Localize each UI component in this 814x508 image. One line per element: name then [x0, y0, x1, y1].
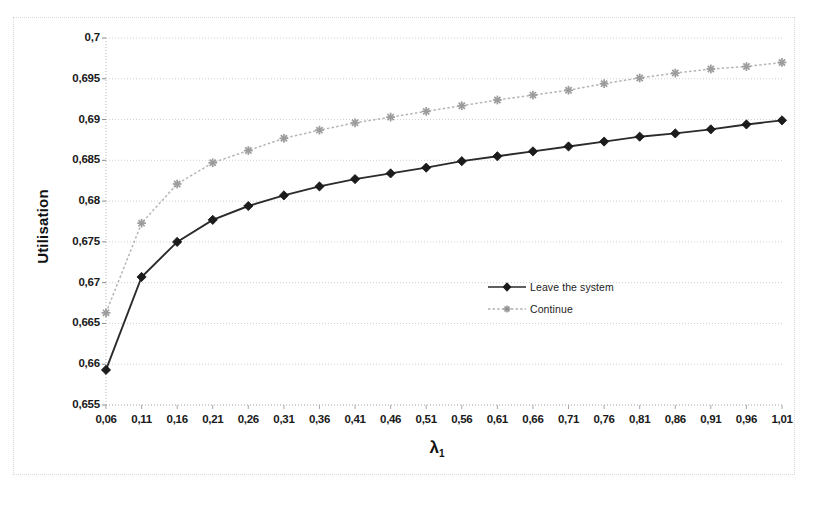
x-axis-tick-label: 0,56	[442, 413, 482, 425]
x-axis-tick-label: 0,96	[726, 413, 766, 425]
x-axis-tick-label: 0,26	[228, 413, 268, 425]
x-axis-tick-label: 1,01	[762, 413, 802, 425]
x-axis-tick-label: 0,46	[371, 413, 411, 425]
x-axis-tick-label: 0,71	[549, 413, 589, 425]
series-markers	[101, 58, 786, 374]
x-axis-tick-label: 0,36	[299, 413, 339, 425]
y-axis-tick-label: 0,68	[44, 194, 100, 206]
x-axis-tick-label: 0,86	[655, 413, 695, 425]
series-lines	[106, 62, 782, 369]
y-axis-tick-label: 0,685	[44, 153, 100, 165]
y-axis-tick-label: 0,665	[44, 316, 100, 328]
legend-item-leave-the-system: Leave the system	[487, 276, 614, 298]
x-axis-tick-label: 0,61	[477, 413, 517, 425]
legend-label-leave-the-system: Leave the system	[530, 281, 614, 293]
x-axis-tick-label: 0,16	[157, 413, 197, 425]
x-axis-tick-label: 0,91	[691, 413, 731, 425]
x-axis-tick-label: 0,51	[406, 413, 446, 425]
y-axis-tick-label: 0,69	[44, 113, 100, 125]
y-axis-tick-label: 0,675	[44, 235, 100, 247]
axis-lines	[102, 38, 782, 409]
y-axis-title: Utilisation	[34, 167, 51, 287]
x-axis-tick-label: 0,81	[620, 413, 660, 425]
legend-item-continue: Continue	[487, 298, 614, 320]
y-axis-tick-label: 0,7	[44, 31, 100, 43]
chart-svg	[0, 0, 814, 508]
y-axis-tick-label: 0,655	[44, 398, 100, 410]
x-axis-title-symbol: λ	[429, 438, 438, 457]
y-axis-tick-label: 0,66	[44, 357, 100, 369]
gridlines	[106, 38, 782, 405]
legend-label-continue: Continue	[530, 303, 573, 315]
x-axis-tick-label: 0,66	[513, 413, 553, 425]
chart-plot-area: 0,6550,660,6650,670,6750,680,6850,690,69…	[0, 0, 814, 508]
x-axis-tick-label: 0,06	[86, 413, 126, 425]
x-axis-title-subscript: 1	[439, 448, 445, 459]
y-axis-tick-label: 0,695	[44, 72, 100, 84]
y-axis-tick-label: 0,67	[44, 276, 100, 288]
x-axis-tick-label: 0,21	[193, 413, 233, 425]
chart-legend: Leave the system Continue	[487, 276, 614, 320]
x-axis-tick-label: 0,41	[335, 413, 375, 425]
chart-figure: 0,6550,660,6650,670,6750,680,6850,690,69…	[0, 0, 814, 508]
x-axis-title: λ1	[382, 438, 492, 459]
legend-marker-asterisk	[487, 302, 527, 316]
x-axis-tick-label: 0,11	[122, 413, 162, 425]
legend-marker-diamond	[487, 280, 527, 294]
x-axis-tick-label: 0,31	[264, 413, 304, 425]
x-axis-tick-label: 0,76	[584, 413, 624, 425]
